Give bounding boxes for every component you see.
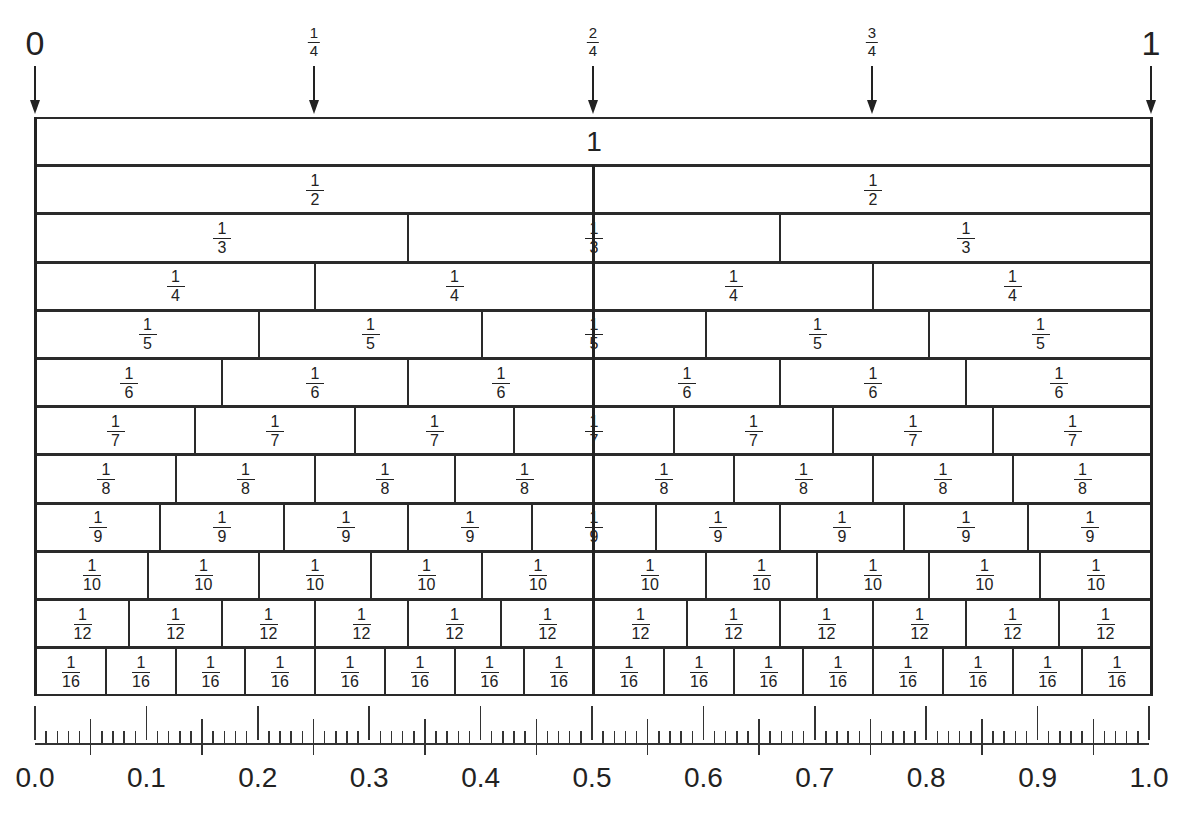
ruler-tick bbox=[1070, 731, 1072, 743]
fraction-numerator: 1 bbox=[1087, 557, 1105, 576]
fraction-label: 14 bbox=[446, 268, 464, 304]
fraction-cell: 112 bbox=[779, 599, 874, 648]
fraction-label: 110 bbox=[864, 557, 882, 593]
fraction-cell: 18 bbox=[593, 454, 735, 503]
ruler-tick bbox=[959, 731, 961, 743]
fraction-numerator: 1 bbox=[864, 557, 882, 576]
ruler-tick bbox=[157, 731, 159, 743]
ruler-tick bbox=[57, 731, 59, 743]
fraction-numerator: 1 bbox=[753, 557, 771, 576]
arrowhead-icon bbox=[30, 100, 40, 114]
fraction-label: 110 bbox=[976, 557, 994, 593]
fraction-cell: 19 bbox=[159, 503, 285, 552]
fraction-numerator: 1 bbox=[120, 365, 138, 384]
ruler-tick bbox=[903, 731, 905, 743]
ruler-label: 0.8 bbox=[907, 762, 946, 794]
fraction-denominator: 9 bbox=[1086, 528, 1095, 545]
fraction-denominator: 10 bbox=[83, 576, 101, 593]
fraction-label: 17 bbox=[107, 413, 125, 449]
ruler-tick bbox=[1148, 706, 1150, 740]
fraction-denominator: 4 bbox=[171, 287, 180, 304]
fraction-label: 18 bbox=[795, 461, 813, 497]
fraction-cell: 112 bbox=[128, 599, 223, 648]
fraction-label: 112 bbox=[446, 606, 464, 642]
fraction-cell: 15 bbox=[35, 310, 260, 359]
ruler-tick bbox=[647, 719, 649, 755]
ruler-tick bbox=[458, 731, 460, 743]
fraction-label: 14 bbox=[1004, 268, 1022, 304]
fraction-cell: 17 bbox=[832, 406, 994, 455]
fraction-cell: 15 bbox=[258, 310, 483, 359]
fraction-denominator: 10 bbox=[1087, 576, 1105, 593]
ruler-tick bbox=[914, 731, 916, 743]
fraction-label: 17 bbox=[426, 413, 444, 449]
ruler-tick bbox=[446, 731, 448, 743]
fraction-cell: 13 bbox=[35, 213, 409, 262]
fraction-cell: 16 bbox=[221, 358, 409, 407]
fraction-denominator: 12 bbox=[818, 625, 836, 642]
ruler-label: 0.0 bbox=[16, 762, 55, 794]
fraction-numerator: 1 bbox=[904, 413, 922, 432]
fraction-label: 112 bbox=[74, 606, 92, 642]
fraction-cell: 17 bbox=[354, 406, 515, 455]
fraction-numerator: 1 bbox=[260, 606, 278, 625]
ruler-tick bbox=[502, 731, 504, 743]
fraction-denominator: 16 bbox=[481, 673, 499, 690]
fraction-denominator: 5 bbox=[1036, 335, 1045, 352]
marker-whole: 0 bbox=[26, 24, 45, 62]
fraction-cell: 112 bbox=[686, 599, 781, 648]
ruler-tick bbox=[669, 731, 671, 743]
ruler-tick bbox=[658, 731, 660, 743]
fraction-label: 15 bbox=[139, 316, 157, 352]
fraction-cell: 112 bbox=[1058, 599, 1153, 648]
fraction-numerator: 1 bbox=[446, 606, 464, 625]
fraction-denominator: 8 bbox=[1078, 480, 1087, 497]
marker-label: 1 bbox=[1142, 26, 1161, 60]
fraction-cell: 110 bbox=[705, 551, 818, 600]
fraction-denominator: 5 bbox=[143, 335, 152, 352]
fraction-label: 19 bbox=[461, 509, 479, 545]
fraction-numerator: 1 bbox=[818, 606, 836, 625]
fraction-denominator: 16 bbox=[760, 673, 778, 690]
ruler-tick bbox=[1126, 731, 1128, 743]
fraction-cell: 116 bbox=[314, 647, 386, 696]
fraction-numerator: 1 bbox=[795, 461, 813, 480]
fraction-numerator: 1 bbox=[411, 654, 429, 673]
ruler-label: 0.1 bbox=[127, 762, 166, 794]
strip-edge-left bbox=[34, 117, 37, 696]
fraction-denominator: 12 bbox=[725, 625, 743, 642]
ruler-tick bbox=[135, 731, 137, 743]
ruler-tick bbox=[302, 731, 304, 743]
fraction-numerator: 1 bbox=[709, 509, 727, 528]
fraction-denominator: 6 bbox=[1055, 384, 1064, 401]
fraction-label: 19 bbox=[89, 509, 107, 545]
fraction-numerator: 1 bbox=[1064, 413, 1082, 432]
fraction-numerator: 1 bbox=[481, 654, 499, 673]
ruler-tick bbox=[703, 706, 705, 740]
ruler-tick bbox=[725, 731, 727, 743]
fraction-cell: 19 bbox=[407, 503, 533, 552]
fraction-denominator: 12 bbox=[911, 625, 929, 642]
ruler-tick bbox=[224, 731, 226, 743]
ruler-tick bbox=[870, 719, 872, 755]
fraction-numerator: 1 bbox=[725, 606, 743, 625]
fraction-numerator: 1 bbox=[969, 654, 987, 673]
fraction-cell: 15 bbox=[928, 310, 1153, 359]
fraction-label: 110 bbox=[529, 557, 547, 593]
fraction-label: 13 bbox=[957, 220, 975, 256]
fraction-label: 17 bbox=[904, 413, 922, 449]
fraction-label: 112 bbox=[1097, 606, 1115, 642]
fraction-numerator: 1 bbox=[74, 606, 92, 625]
fraction-numerator: 1 bbox=[492, 365, 510, 384]
fraction-cell: 18 bbox=[314, 454, 456, 503]
fraction-denominator: 10 bbox=[195, 576, 213, 593]
fraction-cell: 18 bbox=[454, 454, 595, 503]
ruler-label: 0.5 bbox=[573, 762, 612, 794]
fraction-denominator: 16 bbox=[620, 673, 638, 690]
fraction-cell: 17 bbox=[992, 406, 1153, 455]
fraction-denominator: 9 bbox=[838, 528, 847, 545]
fraction-label: 116 bbox=[411, 654, 429, 690]
ruler-tick bbox=[34, 706, 36, 740]
fraction-denominator: 4 bbox=[729, 287, 738, 304]
arrow-icon bbox=[313, 66, 315, 104]
